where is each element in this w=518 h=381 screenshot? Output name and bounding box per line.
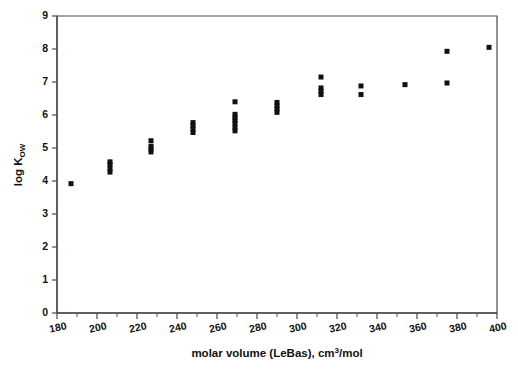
data-point-marker (108, 162, 113, 167)
data-point-marker (275, 110, 280, 115)
x-tick-label: 320 (328, 319, 348, 334)
x-tick-label: 260 (208, 319, 228, 334)
data-point-marker (403, 82, 408, 87)
data-point-marker (445, 80, 450, 85)
x-tick-label: 400 (488, 319, 508, 334)
data-point-marker (233, 128, 238, 133)
data-point-marker (69, 181, 74, 186)
x-axis-title: molar volume (LeBas), cm3/mol (191, 346, 362, 359)
data-point-marker (319, 92, 324, 97)
data-point-marker (359, 92, 364, 97)
data-point-marker (487, 45, 492, 50)
y-axis-ticks (52, 16, 57, 313)
data-point-marker (233, 99, 238, 104)
y-tick-label: 2 (42, 240, 48, 252)
y-tick-label: 3 (42, 207, 48, 219)
chart-figure: 180200220240260280300320340360380400 012… (0, 0, 518, 381)
x-tick-label: 300 (288, 319, 308, 334)
data-point-marker (149, 138, 154, 143)
x-tick-label: 200 (88, 319, 108, 334)
x-tick-label: 340 (368, 319, 388, 334)
data-point-marker (108, 170, 113, 175)
data-point-marker (319, 75, 324, 80)
x-axis-tick-labels: 180200220240260280300320340360380400 (48, 319, 508, 334)
x-tick-label: 380 (448, 319, 468, 334)
data-point-marker (359, 83, 364, 88)
y-axis-tick-labels: 0123456789 (42, 9, 48, 318)
y-tick-label: 8 (42, 42, 48, 54)
x-tick-label: 240 (168, 319, 188, 334)
y-tick-label: 6 (42, 108, 48, 120)
y-tick-label: 5 (42, 141, 48, 153)
data-markers (69, 45, 492, 186)
data-point-marker (191, 130, 196, 135)
y-tick-label: 0 (42, 306, 48, 318)
x-tick-label: 280 (248, 319, 268, 334)
y-tick-label: 4 (42, 174, 48, 186)
x-tick-label: 180 (48, 319, 68, 334)
y-axis-title-group: log KOW (12, 143, 27, 186)
y-axis-title: log KOW (12, 143, 27, 186)
y-tick-label: 7 (42, 75, 48, 87)
x-tick-label: 360 (408, 319, 428, 334)
x-axis-ticks (57, 313, 497, 319)
y-tick-label: 1 (42, 273, 48, 285)
y-tick-label: 9 (42, 9, 48, 21)
scatter-plot: 180200220240260280300320340360380400 012… (0, 0, 518, 381)
plot-frame (57, 16, 497, 313)
x-tick-label: 220 (128, 319, 148, 334)
data-point-marker (149, 149, 154, 154)
data-point-marker (445, 49, 450, 54)
